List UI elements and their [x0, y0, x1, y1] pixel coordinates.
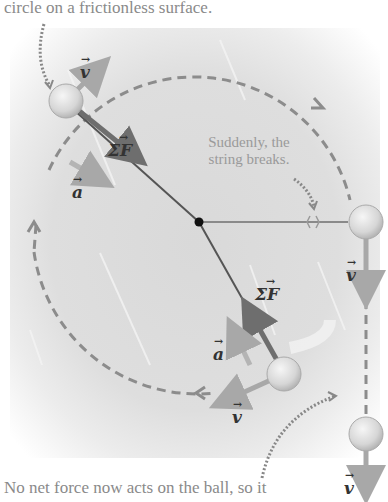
- velocity-label-lower: →v: [232, 407, 242, 427]
- ball-upper-left: [49, 84, 83, 118]
- string-to-upper-ball: [74, 110, 199, 222]
- top-caption: circle on a frictionless surface.: [4, 0, 212, 18]
- pivot-point: [195, 218, 204, 227]
- net-force-label-upper: →ΣF: [108, 140, 132, 160]
- string-break-note: Suddenly, the string breaks.: [194, 134, 304, 168]
- net-force-label-lower: →ΣF: [255, 284, 279, 304]
- velocity-label-upper: →v: [80, 62, 90, 82]
- bottom-caption: No net force now acts on the ball, so it: [4, 478, 267, 498]
- motion-blur: [290, 320, 330, 348]
- ball-released-1: [349, 205, 383, 239]
- ball-lower: [267, 357, 301, 391]
- circular-motion-diagram: circle on a frictionless surface. No net…: [0, 0, 388, 502]
- diagram-graphics: [0, 0, 388, 502]
- path-direction-arrow-left: [28, 222, 40, 232]
- pointer-bottom-caption: [262, 396, 335, 478]
- pointer-string-break: [294, 179, 314, 206]
- net-force-arrow-lower: [246, 305, 278, 362]
- acceleration-label-lower: →a: [213, 344, 224, 364]
- velocity-label-released-2: →v: [344, 478, 354, 498]
- velocity-label-released-1: →v: [346, 265, 356, 285]
- acceleration-label-upper: →a: [72, 182, 83, 202]
- path-direction-arrow-top: [311, 98, 323, 108]
- acceleration-arrow-lower: [231, 325, 250, 365]
- ball-released-2: [349, 417, 383, 451]
- pointer-top-caption: [40, 24, 50, 86]
